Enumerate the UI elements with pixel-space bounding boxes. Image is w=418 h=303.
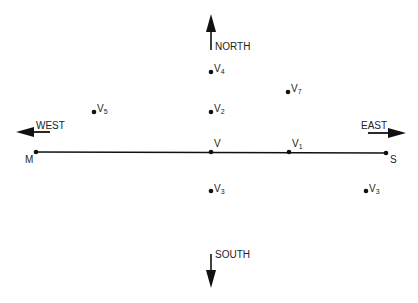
point-v5-label: V5 <box>97 104 108 117</box>
point-v3-south <box>209 189 214 194</box>
point-v3-south-label: V3 <box>214 184 225 197</box>
point-v4 <box>209 70 214 75</box>
endpoint-m-label: M <box>25 155 33 165</box>
west-label: WEST <box>36 121 65 131</box>
point-v3-east-label: V3 <box>369 184 380 197</box>
point-v1 <box>287 150 292 155</box>
diagram-canvas <box>0 0 418 303</box>
point-v2 <box>209 110 214 115</box>
point-v5 <box>92 110 97 115</box>
point-m <box>34 150 39 155</box>
endpoint-s-label: S <box>390 155 397 165</box>
point-v4-label: V4 <box>214 64 225 77</box>
point-s <box>384 151 389 156</box>
north-label: NORTH <box>215 42 250 52</box>
point-v-label: V <box>214 139 221 152</box>
point-v2-label: V2 <box>214 104 225 117</box>
point-v3-east <box>364 189 369 194</box>
point-v1-label: V1 <box>292 139 303 152</box>
point-v7 <box>286 90 291 95</box>
point-v <box>209 150 214 155</box>
south-label: SOUTH <box>215 250 250 260</box>
east-label: EAST <box>361 121 387 131</box>
point-v7-label: V7 <box>291 84 302 97</box>
